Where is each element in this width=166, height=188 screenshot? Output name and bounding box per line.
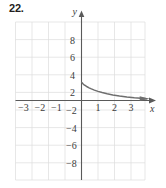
- y-tick-label-minus-2: −2: [66, 106, 77, 116]
- coordinate-plot: [0, 0, 166, 188]
- x-tick-label-1: 1: [96, 103, 101, 113]
- y-tick-label-8: 8: [70, 36, 75, 46]
- y-tick-label-6: 6: [70, 53, 75, 63]
- x-tick-label-minus-3: −3: [18, 103, 29, 113]
- y-axis-name-label: y: [73, 7, 77, 17]
- x-axis-name-label: x: [150, 104, 154, 114]
- figure-container: 22.: [0, 0, 166, 188]
- y-tick-label-minus-4: −4: [66, 124, 77, 134]
- x-tick-label-3: 3: [129, 103, 134, 113]
- y-axis: [79, 11, 85, 181]
- y-tick-label-4: 4: [70, 71, 75, 81]
- x-tick-label-minus-1: −1: [51, 103, 62, 113]
- plotted-curve: [82, 82, 150, 100]
- x-tick-label-minus-2: −2: [35, 103, 46, 113]
- y-tick-label-2: 2: [70, 88, 75, 98]
- y-tick-label-minus-8: −8: [66, 159, 77, 169]
- x-tick-label-2: 2: [112, 103, 117, 113]
- y-tick-label-minus-6: −6: [66, 141, 77, 151]
